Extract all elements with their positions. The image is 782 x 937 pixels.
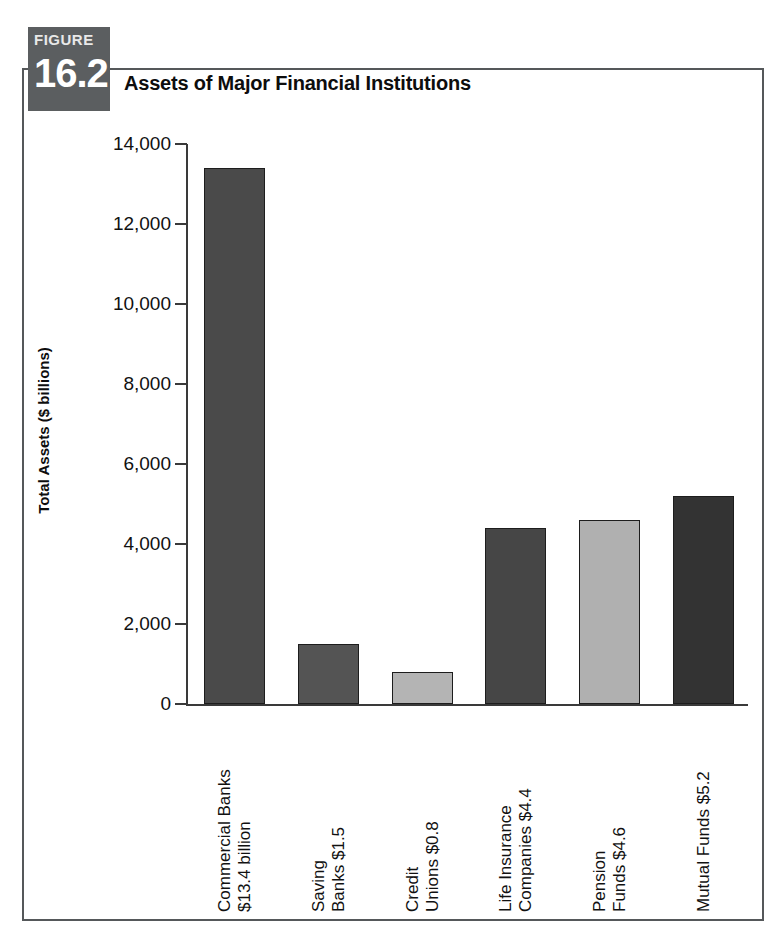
x-axis-line bbox=[186, 704, 748, 706]
bar bbox=[673, 496, 734, 704]
y-axis-tick bbox=[175, 543, 187, 545]
y-axis-tick bbox=[175, 223, 187, 225]
y-axis-tick bbox=[175, 383, 187, 385]
y-axis-tick bbox=[175, 703, 187, 705]
x-axis-label: PensionFunds $4.6 bbox=[590, 827, 630, 912]
bar bbox=[392, 672, 453, 704]
y-axis-tick bbox=[175, 623, 187, 625]
x-axis-label-line1: Pension bbox=[590, 851, 609, 912]
figure-container: FIGURE 16.2 Assets of Major Financial In… bbox=[0, 0, 782, 937]
bar bbox=[298, 644, 359, 704]
bar bbox=[204, 168, 265, 704]
y-axis-tick-label: 0 bbox=[79, 693, 171, 715]
x-axis-label-line2: Banks $1.5 bbox=[329, 827, 349, 912]
x-axis-label-line2: Unions $0.8 bbox=[423, 821, 443, 912]
y-axis-tick-label: 10,000 bbox=[79, 293, 171, 315]
x-axis-label-line2: Funds $4.6 bbox=[610, 827, 630, 912]
y-axis-tick-label: 8,000 bbox=[79, 373, 171, 395]
x-axis-label-line1: Commercial Banks bbox=[215, 769, 234, 912]
x-axis-label-line1: Mutual Funds $5.2 bbox=[694, 771, 713, 912]
figure-word-label: FIGURE bbox=[34, 31, 110, 49]
x-axis-label-line2: Companies $4.4 bbox=[516, 788, 536, 912]
x-axis-label: Commercial Banks$13.4 billion bbox=[215, 769, 255, 912]
y-axis-line bbox=[186, 144, 188, 706]
y-axis-title: Total Assets ($ billions) bbox=[35, 321, 52, 541]
x-axis-label: Mutual Funds $5.2 bbox=[694, 771, 714, 912]
x-axis-label: Life InsuranceCompanies $4.4 bbox=[496, 788, 536, 912]
y-axis-tick-label: 6,000 bbox=[79, 453, 171, 475]
y-axis-tick bbox=[175, 463, 187, 465]
y-axis-tick-label: 2,000 bbox=[79, 613, 171, 635]
y-axis-tick bbox=[175, 143, 187, 145]
plot-area: Total Assets ($ billions) 02,0004,0006,0… bbox=[0, 0, 782, 937]
x-axis-label-line1: Credit bbox=[403, 867, 422, 912]
bar bbox=[485, 528, 546, 704]
figure-number-badge: FIGURE 16.2 bbox=[28, 27, 110, 111]
figure-number-value: 16.2 bbox=[34, 51, 110, 95]
bar bbox=[579, 520, 640, 704]
x-axis-label-line1: Life Insurance bbox=[496, 805, 515, 912]
y-axis-tick bbox=[175, 303, 187, 305]
y-axis-tick-label: 14,000 bbox=[79, 133, 171, 155]
y-axis-tick-label: 12,000 bbox=[79, 213, 171, 235]
y-axis-tick-label: 4,000 bbox=[79, 533, 171, 555]
x-axis-label-line1: Saving bbox=[309, 860, 328, 912]
x-axis-label-line2: $13.4 billion bbox=[235, 769, 255, 912]
x-axis-label: SavingBanks $1.5 bbox=[309, 827, 349, 912]
x-axis-label: CreditUnions $0.8 bbox=[403, 821, 443, 912]
